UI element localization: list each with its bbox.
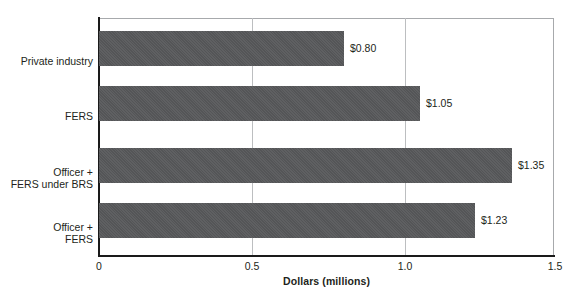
bar-officer-fers — [99, 203, 475, 238]
bar-private-industry — [99, 31, 344, 66]
category-label-text: Officer + FERS — [53, 221, 93, 246]
value-label-officer-fers-under-brs: $1.35 — [518, 159, 544, 171]
category-label-text: Private industry — [21, 55, 93, 67]
value-label-officer-fers: $1.23 — [481, 214, 507, 226]
bar-fers — [99, 86, 420, 121]
category-label-officer-fers: Officer + FERS — [0, 208, 93, 246]
x-axis-line — [98, 255, 555, 257]
bar-officer-fers-under-brs — [99, 148, 512, 183]
xtick-label-0: 0 — [79, 260, 119, 272]
category-label-text: Officer + FERS under BRS — [11, 166, 93, 191]
bar-chart: Private industry FERS Officer + FERS und… — [0, 0, 570, 294]
category-label-text: FERS — [65, 110, 93, 122]
value-label-private-industry: $0.80 — [350, 42, 376, 54]
xtick-label-1.0: 1.0 — [385, 260, 425, 272]
category-label-private-industry: Private industry — [0, 42, 93, 67]
xtick-label-0.5: 0.5 — [232, 260, 272, 272]
xtick-label-1.5: 1.5 — [535, 260, 570, 272]
category-label-fers: FERS — [0, 97, 93, 122]
category-label-officer-fers-under-brs: Officer + FERS under BRS — [0, 153, 93, 191]
value-label-fers: $1.05 — [426, 97, 452, 109]
x-axis-title: Dollars (millions) — [99, 275, 554, 287]
